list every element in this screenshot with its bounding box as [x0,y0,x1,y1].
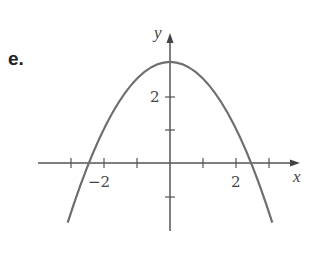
y-axis-arrow-icon [167,33,174,43]
x-axis-arrow-icon [290,160,300,167]
x-axis-label: x [292,167,301,186]
x-tick-label-2: 2 [231,173,241,191]
parabola-chart: −2 2 2 x y [0,0,316,257]
y-axis-label: y [152,23,162,42]
x-tick-label-neg2: −2 [88,173,110,191]
y-tick-label-2: 2 [150,88,160,106]
